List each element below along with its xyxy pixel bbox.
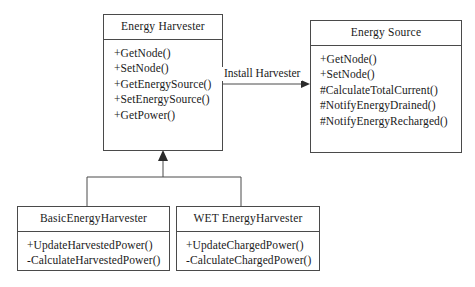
class-name-wet-energy-harvester: WET EnergyHarvester <box>177 207 319 232</box>
class-members-energy-source: +GetNode() +SetNode() #CalculateTotalCur… <box>311 46 461 136</box>
class-members-energy-harvester: +GetNode() +SetNode() +GetEnergySource()… <box>104 40 222 130</box>
class-name-basic-energy-harvester: BasicEnergyHarvester <box>18 207 169 232</box>
class-member: -CalculateHarvestedPower() <box>18 253 169 269</box>
edge-label-install-harvester: Install Harvester <box>222 67 302 81</box>
class-name-energy-harvester: Energy Harvester <box>104 15 222 40</box>
class-member: #CalculateTotalCurrent() <box>311 83 461 99</box>
class-members-basic-energy-harvester: +UpdateHarvestedPower() -CalculateHarves… <box>18 232 169 275</box>
class-member: +GetNode() <box>104 46 222 62</box>
class-member: +SetEnergySource() <box>104 92 222 108</box>
class-member: #NotifyEnergyRecharged() <box>311 114 461 130</box>
class-member: +GetNode() <box>311 52 461 68</box>
uml-class-diagram: Energy Harvester +GetNode() +SetNode() +… <box>0 0 475 287</box>
class-box-basic-energy-harvester[interactable]: BasicEnergyHarvester +UpdateHarvestedPow… <box>17 206 170 271</box>
class-member: +GetPower() <box>104 108 222 124</box>
class-member: +UpdateChargedPower() <box>177 238 319 254</box>
class-box-energy-source[interactable]: Energy Source +GetNode() +SetNode() #Cal… <box>310 20 462 153</box>
class-member: +SetNode() <box>311 67 461 83</box>
class-member: +UpdateHarvestedPower() <box>18 238 169 254</box>
class-member: +SetNode() <box>104 61 222 77</box>
class-box-wet-energy-harvester[interactable]: WET EnergyHarvester +UpdateChargedPower(… <box>176 206 320 271</box>
class-member: -CalculateChargedPower() <box>177 253 319 269</box>
edge-generalization <box>87 150 241 206</box>
class-members-wet-energy-harvester: +UpdateChargedPower() -CalculateChargedP… <box>177 232 319 275</box>
class-member: #NotifyEnergyDrained() <box>311 98 461 114</box>
class-box-energy-harvester[interactable]: Energy Harvester +GetNode() +SetNode() +… <box>103 14 223 151</box>
class-member: +GetEnergySource() <box>104 77 222 93</box>
class-name-energy-source: Energy Source <box>311 21 461 46</box>
edge-install-harvester <box>223 80 310 88</box>
